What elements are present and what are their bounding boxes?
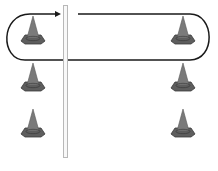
cone-left-1 bbox=[21, 16, 45, 44]
drill-diagram bbox=[0, 0, 218, 171]
cone-right-3 bbox=[171, 109, 195, 137]
vertical-pole bbox=[63, 5, 68, 158]
cone-left-3 bbox=[21, 109, 45, 137]
arrow-head-icon bbox=[55, 11, 61, 17]
cone-right-2 bbox=[171, 63, 195, 91]
cone-right-1 bbox=[171, 16, 195, 44]
diagram-canvas bbox=[0, 0, 218, 171]
cone-left-2 bbox=[21, 63, 45, 91]
